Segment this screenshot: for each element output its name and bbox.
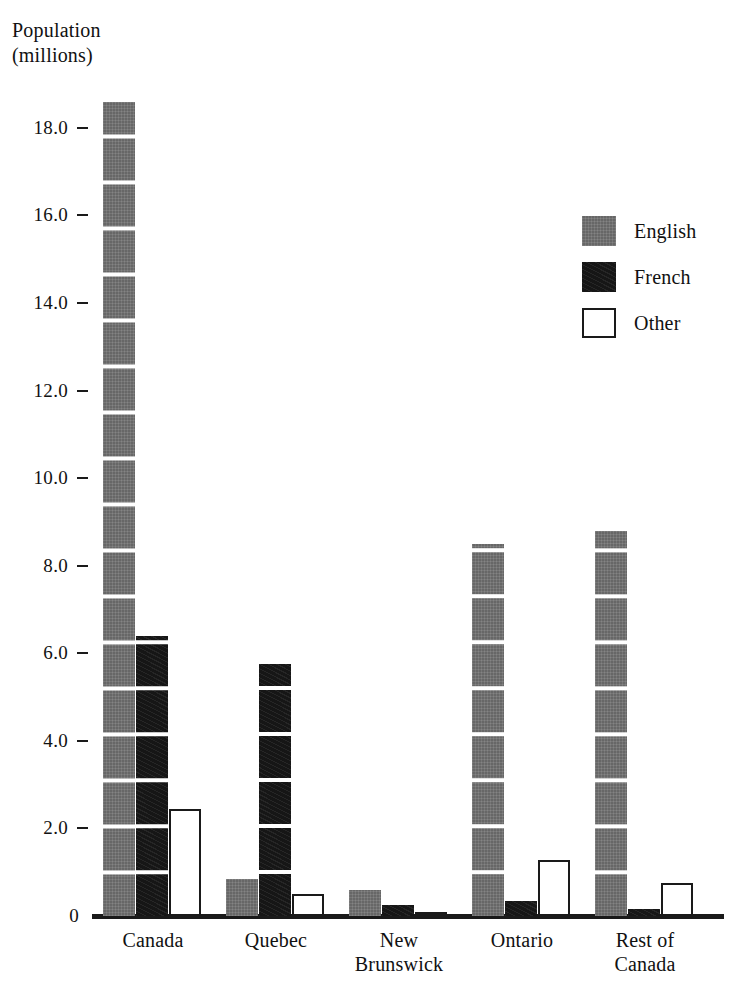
y-axis-tick: 4.0 [43, 730, 92, 752]
legend-label-english: English [634, 220, 697, 243]
legend-swatch-english-icon [582, 216, 616, 246]
x-axis-category-label: Quebec [214, 928, 338, 952]
x-axis-category-label: Rest of Canada [583, 928, 707, 976]
y-axis-tick-mark [77, 652, 88, 654]
y-axis-tick-label: 2.0 [43, 817, 68, 839]
y-axis-tick: 0 [69, 905, 92, 927]
population-by-language-bar-chart: Population (millions) 18.016.014.012.010… [0, 0, 752, 986]
bar-other[interactable] [415, 912, 447, 916]
bar-group: Quebec [226, 84, 326, 916]
y-axis-tick-mark [77, 302, 88, 304]
y-axis-tick-label: 8.0 [43, 555, 68, 577]
y-axis-tick: 6.0 [43, 642, 92, 664]
bar-english[interactable] [103, 102, 135, 916]
bar-french[interactable] [259, 664, 291, 916]
y-axis-title: Population (millions) [12, 18, 101, 68]
y-axis-tick: 14.0 [34, 292, 92, 314]
bar-other[interactable] [661, 883, 693, 916]
y-axis-tick: 2.0 [43, 817, 92, 839]
legend-item-other: Other [582, 300, 697, 346]
chart-legend: English French Other [582, 208, 697, 346]
bar-group: New Brunswick [349, 84, 449, 916]
y-axis-tick-label: 10.0 [34, 467, 68, 489]
legend-label-other: Other [634, 312, 681, 335]
legend-swatch-other-icon [582, 308, 616, 338]
x-axis-category-label: New Brunswick [337, 928, 461, 976]
bar-french[interactable] [382, 905, 414, 916]
y-axis-tick-label: 14.0 [34, 292, 68, 314]
bar-french[interactable] [628, 909, 660, 916]
bar-other[interactable] [169, 809, 201, 916]
y-axis-tick-mark [77, 390, 88, 392]
y-axis-tick-mark [77, 740, 88, 742]
bar-english[interactable] [472, 544, 504, 916]
bar-group: Canada [103, 84, 203, 916]
bar-english[interactable] [349, 890, 381, 916]
y-axis-tick-label: 12.0 [34, 380, 68, 402]
y-axis-tick: 10.0 [34, 467, 92, 489]
y-axis-tick-label: 16.0 [34, 204, 68, 226]
bar-french[interactable] [136, 636, 168, 916]
y-axis-tick-mark [77, 214, 88, 216]
y-axis-tick-mark [77, 477, 88, 479]
y-axis-tick: 8.0 [43, 555, 92, 577]
x-axis-category-label: Canada [91, 928, 215, 952]
legend-item-french: French [582, 254, 697, 300]
legend-label-french: French [634, 266, 691, 289]
y-axis-tick: 12.0 [34, 380, 92, 402]
y-axis-tick-label: 4.0 [43, 730, 68, 752]
bar-other[interactable] [538, 860, 570, 916]
bar-other[interactable] [292, 894, 324, 916]
bar-english[interactable] [595, 531, 627, 916]
legend-swatch-french-icon [582, 262, 616, 292]
y-axis-tick-mark [77, 565, 88, 567]
y-axis-tick: 16.0 [34, 204, 92, 226]
bar-english[interactable] [226, 879, 258, 916]
x-axis-category-label: Ontario [460, 928, 584, 952]
y-axis-tick: 18.0 [34, 117, 92, 139]
y-axis-tick-mark [77, 827, 88, 829]
legend-item-english: English [582, 208, 697, 254]
bar-group: Ontario [472, 84, 572, 916]
y-axis-tick-label: 6.0 [43, 642, 68, 664]
y-axis-tick-label: 0 [69, 905, 79, 927]
bar-french[interactable] [505, 901, 537, 916]
caption-fragment [10, 976, 742, 986]
y-axis-tick-mark [77, 127, 88, 129]
y-axis-tick-label: 18.0 [34, 117, 68, 139]
